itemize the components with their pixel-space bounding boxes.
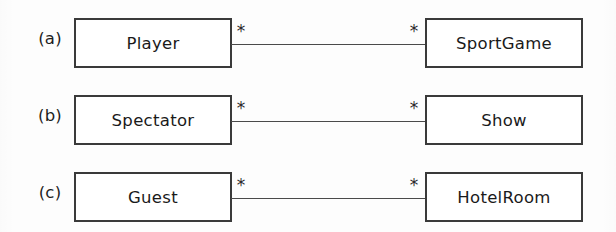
class-name-label: Show xyxy=(481,111,527,130)
multiplicity-left: * xyxy=(233,174,249,196)
multiplicity-right: * xyxy=(406,20,422,42)
class-box-sportgame[interactable]: SportGame xyxy=(425,18,583,68)
multiplicity-left: * xyxy=(233,20,249,42)
association-line xyxy=(231,198,427,199)
multiplicity-left: * xyxy=(233,97,249,119)
class-name-label: Spectator xyxy=(112,111,195,130)
row-caption-a: (a) xyxy=(30,26,70,52)
class-name-label: HotelRoom xyxy=(457,188,550,207)
class-box-guest[interactable]: Guest xyxy=(74,172,232,222)
class-box-show[interactable]: Show xyxy=(425,95,583,145)
class-name-label: Player xyxy=(126,34,179,53)
association-row: (c) Guest * * HotelRoom xyxy=(0,154,616,228)
association-line xyxy=(231,44,427,45)
row-caption-c: (c) xyxy=(30,180,70,206)
class-box-spectator[interactable]: Spectator xyxy=(74,95,232,145)
association-line xyxy=(231,121,427,122)
association-row: (b) Spectator * * Show xyxy=(0,77,616,151)
association-row: (a) Player * * SportGame xyxy=(0,0,616,74)
row-caption-b: (b) xyxy=(30,103,70,129)
class-box-player[interactable]: Player xyxy=(74,18,232,68)
multiplicity-right: * xyxy=(406,97,422,119)
class-name-label: Guest xyxy=(128,188,178,207)
multiplicity-right: * xyxy=(406,174,422,196)
class-name-label: SportGame xyxy=(456,34,552,53)
class-box-hotelroom[interactable]: HotelRoom xyxy=(425,172,583,222)
diagram-canvas: (a) Player * * SportGame (b) Spectator *… xyxy=(0,0,616,232)
